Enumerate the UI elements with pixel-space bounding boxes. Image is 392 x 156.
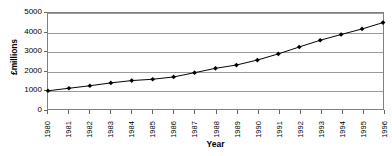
data-point-marker bbox=[381, 20, 386, 25]
plot-area bbox=[47, 12, 384, 110]
data-point-marker bbox=[339, 32, 344, 37]
y-axis-tick-label: 0 bbox=[16, 106, 42, 114]
x-axis-tick-labels: 1980198119821983198419851986198719881989… bbox=[47, 114, 384, 140]
y-axis-tick-label: 4000 bbox=[16, 28, 42, 36]
data-point-marker bbox=[192, 70, 197, 75]
y-axis-tick-labels: 010002000300040005000 bbox=[16, 0, 42, 156]
data-point-marker bbox=[46, 88, 51, 93]
line-chart: £millions 010002000300040005000 19801981… bbox=[0, 0, 392, 156]
data-point-marker bbox=[108, 81, 113, 86]
y-axis-tick-label: 5000 bbox=[16, 8, 42, 16]
data-point-marker bbox=[318, 38, 323, 43]
data-point-marker bbox=[234, 63, 239, 68]
series-line bbox=[48, 23, 383, 91]
data-point-marker bbox=[87, 83, 92, 88]
y-axis-tick-label: 2000 bbox=[16, 67, 42, 75]
data-point-marker bbox=[360, 27, 365, 32]
y-axis-tick-label: 1000 bbox=[16, 86, 42, 94]
data-point-marker bbox=[297, 45, 302, 50]
data-point-marker bbox=[129, 78, 134, 83]
series-line-group bbox=[48, 13, 383, 109]
data-point-marker bbox=[67, 86, 72, 91]
y-axis-tick-label: 3000 bbox=[16, 47, 42, 55]
data-point-marker bbox=[150, 77, 155, 82]
data-point-marker bbox=[213, 66, 218, 71]
data-point-marker bbox=[276, 52, 281, 57]
x-axis-tick-mark bbox=[384, 110, 385, 114]
data-point-marker bbox=[255, 58, 260, 63]
data-point-marker bbox=[171, 75, 176, 80]
x-axis-title: Year bbox=[47, 139, 384, 149]
